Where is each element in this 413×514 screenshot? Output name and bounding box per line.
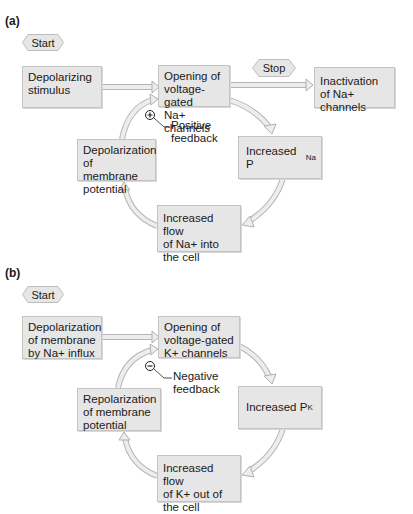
text-line: potential [83,183,150,196]
arrow-a-opening-to-increased-p [229,100,276,134]
box-a-depolarization: Depolarization of membrane potential [77,139,156,181]
increased-p-text: Increased P [246,145,306,171]
start-hex-b: Start [22,286,64,303]
negative-feedback-label: Negative feedback [173,370,220,396]
arrow-b-flow-to-repolarization [119,432,157,476]
text-line: feedback [173,383,220,396]
text-line: Repolarization [83,393,155,406]
box-a-increased-pna: Increased PNa [238,136,322,179]
text-line: of Na+ into [163,238,235,251]
arrow-b-increased-p-to-flow [242,428,283,477]
text-line: of membrane [83,406,155,419]
text-line: Opening of [164,321,234,334]
box-b-repolarization: Repolarization of membrane potential [77,388,161,431]
arrow-b-opening-to-increased-p [239,346,276,384]
feedback-b-symbol [146,362,173,379]
box-b-increased-pk: Increased PK [238,386,322,429]
text-line: the cell [163,501,235,514]
box-a-depolarizing-stimulus: Depolarizing stimulus [22,66,102,108]
text-line: Negative [173,370,220,383]
text-line: Opening of [164,70,224,83]
increased-p-text: Increased P [246,401,307,414]
arrow-a-increased-p-to-flow [242,178,283,227]
text-line: of K+ out of [163,488,235,501]
text-line: stimulus [28,84,96,97]
text-line: potential [83,419,155,432]
text-line: Depolarization [83,144,150,157]
stop-hex: Stop [252,59,296,77]
positive-feedback-label: Positive feedback [171,119,218,145]
box-b-depolarization-na-influx: Depolarization of membrane by Na+ influx [22,316,102,359]
arrow-a-opening-to-inactivation [229,79,313,91]
text-line: voltage-gated [164,83,224,109]
box-b-increased-flow: Increased flow of K+ out of the cell [157,455,241,502]
text-line: Depolarizing [28,71,96,84]
text-line: Positive [171,119,218,132]
start-label-b: Start [31,289,54,301]
text-line: K+ channels [164,347,234,360]
arrow-b-stimulus-to-opening [101,331,159,343]
panel-b-label: (b) [5,266,20,280]
box-a-inactivation: Inactivation of Na+ channels [314,67,395,108]
arrow-a-stimulus-to-opening [101,81,159,93]
box-a-increased-flow: Increased flow of Na+ into the cell [157,205,241,252]
box-a-opening-na-channels: Opening of voltage-gated Na+ channels [158,65,230,107]
start-label-a: Start [31,37,54,49]
text-line: Inactivation [320,75,389,88]
text-line: by Na+ influx [28,347,96,360]
text-line: of membrane [83,157,150,183]
text-line: of membrane [28,334,96,347]
text-line: feedback [171,132,218,145]
text-line: Increased flow [163,212,235,238]
start-hex-a: Start [22,34,64,51]
text-line: Increased flow [163,462,235,488]
text-line: Depolarization [28,321,96,334]
box-b-opening-k-channels: Opening of voltage-gated K+ channels [158,316,240,358]
text-line: the cell [163,251,235,264]
panel-a-label: (a) [5,14,20,28]
stop-label: Stop [263,62,286,74]
text-line: of Na+ channels [320,88,389,114]
text-line: voltage-gated [164,334,234,347]
